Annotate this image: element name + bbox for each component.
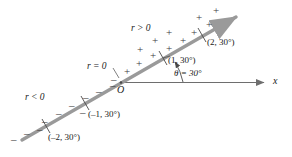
- angle-label: θ = 30°: [174, 69, 202, 78]
- minus-mark: –: [83, 92, 89, 103]
- polar-line-figure: + + + + + + + + + + + + – – – – – – – – …: [0, 0, 292, 157]
- point-label-2-30: (2, 30°): [207, 38, 235, 47]
- point-label-1-30: (1, 30°): [168, 56, 196, 65]
- region-label-positive-r: r > 0: [131, 24, 151, 34]
- minus-mark: –: [69, 100, 75, 111]
- minus-mark: –: [56, 108, 62, 119]
- plus-mark: +: [196, 12, 202, 23]
- plus-mark: +: [213, 5, 219, 16]
- plus-mark: +: [206, 19, 212, 30]
- minus-mark: –: [80, 107, 86, 118]
- plus-mark: +: [136, 58, 142, 69]
- plus-mark: +: [180, 35, 186, 46]
- plus-mark: +: [124, 66, 130, 77]
- region-label-negative-r: r < 0: [25, 93, 45, 103]
- minus-mark: –: [11, 134, 17, 145]
- minus-mark: –: [24, 128, 30, 139]
- minus-mark: –: [96, 86, 102, 97]
- plus-mark: +: [137, 44, 143, 55]
- point-label-neg2-30: (–2, 30°): [48, 133, 80, 142]
- point-label-neg1-30: (–1, 30°): [88, 110, 120, 119]
- plus-mark: +: [150, 50, 156, 61]
- plus-mark: +: [191, 27, 197, 38]
- minus-mark: –: [37, 124, 43, 135]
- minus-mark: –: [110, 80, 116, 91]
- x-axis-label: x: [273, 76, 277, 86]
- origin-label: O: [117, 85, 124, 95]
- plus-mark: +: [166, 43, 172, 54]
- plus-mark: +: [166, 27, 172, 38]
- polar-line-theta-30: [22, 17, 236, 140]
- region-label-zero-r: r = 0: [87, 62, 107, 72]
- plus-mark: +: [152, 35, 158, 46]
